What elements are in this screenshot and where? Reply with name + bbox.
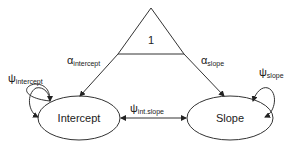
psi-int-slope-label: ψint.slope bbox=[130, 102, 164, 116]
slope-node-label: Slope bbox=[216, 112, 244, 124]
alpha-intercept-label: αintercept bbox=[67, 54, 100, 68]
constant-triangle: 1 bbox=[118, 8, 184, 54]
constant-label: 1 bbox=[148, 34, 154, 46]
psi-slope-label: ψslope bbox=[259, 66, 284, 80]
psi-slope-loop bbox=[253, 88, 274, 117]
psi-intercept-path bbox=[27, 84, 50, 101]
intercept-node-label: Intercept bbox=[58, 112, 101, 124]
psi-intercept-loop bbox=[29, 88, 50, 117]
alpha-slope-label: αslope bbox=[201, 54, 224, 68]
psi-intercept-label: ψintercept bbox=[8, 72, 43, 86]
growth-model-diagram: 1 αintercept αslope Intercept Slope ψint… bbox=[0, 0, 290, 148]
